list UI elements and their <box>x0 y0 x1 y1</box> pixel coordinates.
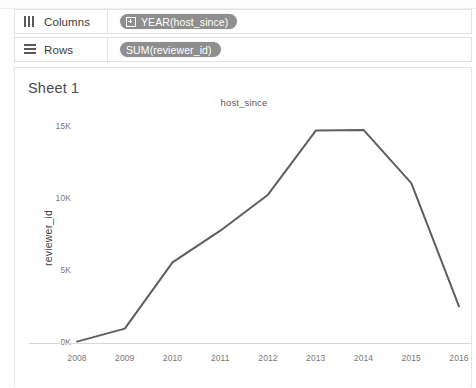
expand-plus-icon[interactable] <box>126 17 136 27</box>
rows-shelf-label: Rows <box>44 44 73 56</box>
columns-shelf-label: Columns <box>44 16 90 28</box>
pill-sum-reviewer-id[interactable]: SUM(reviewer_id) <box>120 42 221 57</box>
window-top-strip <box>0 0 476 9</box>
pill-sum-reviewer-id-label: SUM(reviewer_id) <box>126 44 212 56</box>
columns-pill-zone[interactable]: YEAR(host_since) <box>108 10 471 33</box>
worksheet-view: Sheet 1 host_since reviewer_id 0K5K10K15… <box>14 67 472 387</box>
pill-year-host-since-label: YEAR(host_since) <box>141 16 228 28</box>
line-series-svg <box>15 68 472 387</box>
line-series-path <box>77 130 459 342</box>
rows-icon <box>24 44 37 55</box>
rows-shelf[interactable]: Rows SUM(reviewer_id) <box>14 37 472 62</box>
rows-shelf-label-zone: Rows <box>15 38 108 61</box>
pill-year-host-since[interactable]: YEAR(host_since) <box>120 14 237 29</box>
columns-icon <box>24 16 37 27</box>
plot-area: reviewer_id 0K5K10K15K 20082009201020112… <box>15 68 472 387</box>
columns-shelf-label-zone: Columns <box>15 10 108 33</box>
columns-shelf[interactable]: Columns YEAR(host_since) <box>14 9 472 34</box>
rows-pill-zone[interactable]: SUM(reviewer_id) <box>108 38 471 61</box>
